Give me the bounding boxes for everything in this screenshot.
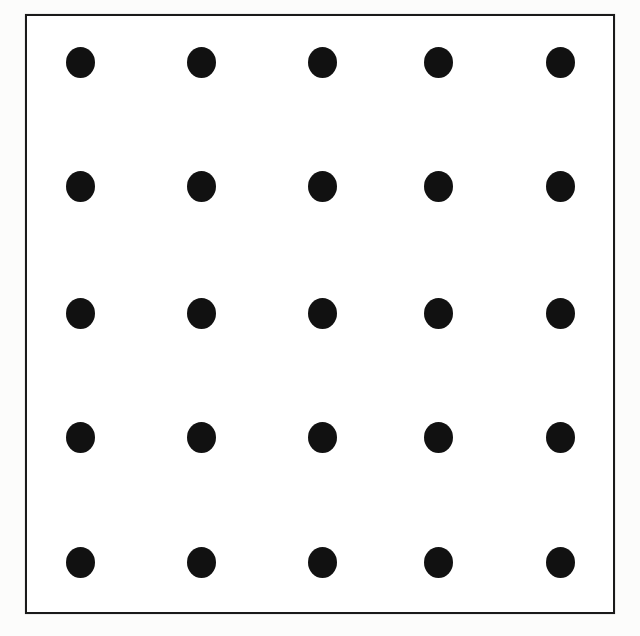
figure-canvas — [0, 0, 640, 636]
grid-dot-r3-c5 — [546, 298, 575, 329]
grid-dot-r2-c4 — [424, 171, 453, 202]
grid-dot-r2-c5 — [546, 171, 575, 202]
grid-dot-r5-c1 — [66, 547, 95, 578]
grid-dot-r1-c1 — [66, 47, 95, 78]
grid-dot-r4-c1 — [66, 422, 95, 453]
dot-grid — [0, 0, 640, 636]
grid-dot-r3-c3 — [308, 298, 337, 329]
grid-dot-r3-c1 — [66, 298, 95, 329]
grid-dot-r5-c5 — [546, 547, 575, 578]
grid-dot-r1-c4 — [424, 47, 453, 78]
grid-dot-r1-c2 — [187, 47, 216, 78]
grid-dot-r4-c5 — [546, 422, 575, 453]
grid-dot-r2-c3 — [308, 171, 337, 202]
grid-dot-r1-c5 — [546, 47, 575, 78]
grid-dot-r4-c2 — [187, 422, 216, 453]
grid-dot-r5-c4 — [424, 547, 453, 578]
grid-dot-r3-c4 — [424, 298, 453, 329]
grid-dot-r3-c2 — [187, 298, 216, 329]
grid-dot-r5-c3 — [308, 547, 337, 578]
grid-dot-r2-c1 — [66, 171, 95, 202]
grid-dot-r2-c2 — [187, 171, 216, 202]
grid-dot-r5-c2 — [187, 547, 216, 578]
grid-dot-r4-c4 — [424, 422, 453, 453]
grid-dot-r4-c3 — [308, 422, 337, 453]
grid-dot-r1-c3 — [308, 47, 337, 78]
